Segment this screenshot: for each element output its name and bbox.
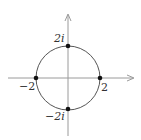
label-2i: 2i [53,32,65,45]
label-neg-2i: −2i [45,110,65,123]
point-2i [66,44,71,49]
point-neg-2i [66,107,71,112]
point-2 [98,76,103,81]
label-neg-2: −2 [19,80,35,93]
complex-plane-diagram: 2i −2 2 −2i [0,0,141,140]
label-2: 2 [101,81,108,94]
